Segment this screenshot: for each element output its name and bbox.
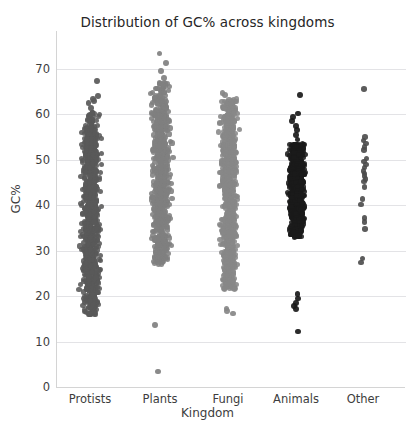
data-point [86, 217, 91, 222]
data-point [154, 139, 159, 144]
data-point [296, 164, 301, 169]
data-point [91, 172, 96, 177]
data-point [362, 165, 368, 171]
data-point [93, 148, 98, 153]
data-point [165, 224, 170, 229]
data-point [227, 178, 232, 183]
data-point [87, 188, 92, 193]
data-point [153, 86, 158, 91]
data-point [91, 175, 96, 180]
data-point [158, 241, 163, 246]
data-point [293, 211, 298, 216]
data-point [296, 154, 301, 159]
data-point [157, 148, 162, 153]
data-point [90, 302, 95, 307]
data-point [93, 172, 98, 177]
data-point [93, 168, 98, 173]
data-point [89, 241, 94, 246]
data-point [225, 225, 230, 230]
data-point [159, 131, 164, 136]
data-point [297, 92, 303, 98]
data-point [297, 223, 302, 228]
data-point [292, 173, 297, 178]
data-point [297, 182, 302, 187]
data-point [158, 132, 163, 137]
data-point [290, 161, 295, 166]
data-point [85, 143, 90, 148]
data-point [291, 172, 296, 177]
data-point [227, 136, 232, 141]
data-point [157, 133, 162, 138]
data-point [298, 183, 303, 188]
data-point [93, 212, 98, 217]
data-point [219, 99, 224, 104]
data-point [290, 188, 295, 193]
data-point [94, 227, 99, 232]
data-point [291, 175, 296, 180]
data-point [230, 140, 235, 145]
data-point [298, 153, 303, 158]
data-point [297, 211, 302, 216]
data-point [226, 200, 231, 205]
data-point [298, 146, 303, 151]
data-point [225, 240, 230, 245]
data-point [223, 193, 228, 198]
data-point [289, 215, 294, 220]
data-point [88, 212, 93, 217]
data-point [90, 306, 95, 311]
data-point [224, 137, 229, 142]
data-point [84, 272, 89, 277]
data-point [300, 172, 305, 177]
data-point [226, 281, 231, 286]
data-point [298, 145, 303, 150]
data-point [156, 97, 161, 102]
data-point [162, 146, 167, 151]
data-point [91, 185, 96, 190]
data-point [86, 228, 91, 233]
data-point [299, 185, 304, 190]
data-point [87, 280, 92, 285]
data-point [295, 185, 300, 190]
data-point [88, 144, 93, 149]
data-point [227, 265, 232, 270]
data-point [89, 269, 94, 274]
data-point [292, 217, 297, 222]
data-point [90, 254, 95, 259]
data-point [297, 220, 302, 225]
data-point [228, 128, 233, 133]
data-point [295, 171, 300, 176]
data-point [292, 199, 297, 204]
data-point [157, 134, 162, 139]
data-point [85, 187, 90, 192]
data-point [88, 151, 93, 156]
data-point [155, 136, 160, 141]
data-point [228, 163, 233, 168]
data-point [289, 161, 294, 166]
data-point [155, 198, 160, 203]
data-point [290, 171, 295, 176]
data-point [93, 169, 98, 174]
data-point [158, 169, 163, 174]
data-point [363, 162, 369, 168]
data-point [225, 262, 230, 267]
data-point [85, 137, 90, 142]
data-point [84, 191, 89, 196]
data-point [93, 199, 98, 204]
data-point [157, 127, 162, 132]
data-point [83, 309, 88, 314]
data-point [224, 211, 229, 216]
data-point [89, 286, 94, 291]
data-point [295, 212, 300, 217]
data-point [226, 167, 231, 172]
data-point [162, 187, 167, 192]
data-point [160, 213, 165, 218]
data-point [160, 170, 165, 175]
data-point [293, 228, 298, 233]
data-point [87, 196, 92, 201]
data-point [296, 190, 301, 195]
data-point [292, 160, 297, 165]
data-point [224, 170, 229, 175]
data-point [224, 180, 229, 185]
data-point [87, 238, 92, 243]
data-point [160, 170, 165, 175]
